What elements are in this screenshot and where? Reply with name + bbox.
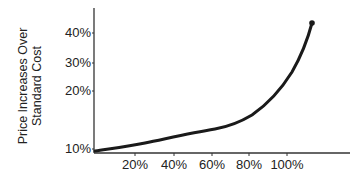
curve-endpoint-marker xyxy=(309,20,315,26)
price-increase-curve xyxy=(95,23,312,151)
chart-plot-area xyxy=(0,0,359,183)
